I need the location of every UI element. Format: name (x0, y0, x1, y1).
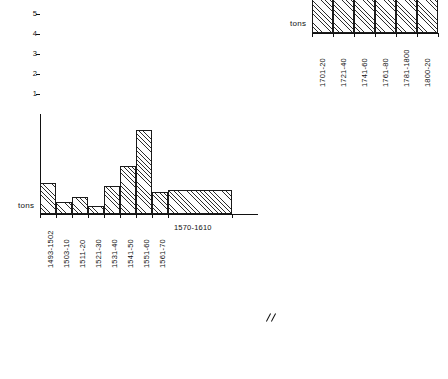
x-axis-label: 1503-10 (63, 239, 71, 268)
bar (333, 0, 354, 33)
bar (312, 0, 333, 33)
x-tick (152, 214, 153, 218)
bar (375, 0, 396, 33)
y-tick-label: 2 (33, 70, 37, 78)
bar (88, 206, 104, 214)
x-tick (40, 214, 41, 218)
x-tick (120, 214, 121, 218)
y-tick-label: 3 (33, 50, 37, 58)
x-axis-label: 1701-20 (319, 58, 327, 87)
y-tick-label: 4 (33, 30, 37, 38)
bar (40, 183, 56, 214)
x-tick (72, 214, 73, 218)
y-axis-unit-label-left: tons (18, 202, 34, 210)
bar (152, 192, 168, 214)
x-axis-label: 1493-1502 (47, 230, 55, 268)
plot-area-right (312, 0, 438, 33)
x-axis-label: 1800-20 (424, 58, 432, 87)
x-tick (417, 33, 418, 37)
x-axis-label: 1521-30 (95, 239, 103, 268)
x-axis-label: 1721-40 (340, 58, 348, 87)
plot-area-left (40, 114, 232, 214)
x-axis-label: 1511-20 (79, 240, 87, 268)
bar (417, 0, 438, 33)
x-tick (396, 33, 397, 37)
x-tick (438, 33, 439, 37)
bar (56, 202, 72, 214)
x-tick (104, 214, 105, 218)
x-axis-label: 1541-50 (127, 239, 135, 268)
x-axis-label: 1570-1610 (174, 224, 212, 232)
bar (72, 197, 88, 214)
bar (104, 186, 120, 214)
x-tick (375, 33, 376, 37)
y-axis-unit-label-right: tons (290, 20, 306, 28)
x-axis-label: 1781-1800 (403, 49, 411, 87)
x-tick (88, 214, 89, 218)
x-axis-label: 1741-60 (361, 58, 369, 87)
x-tick (333, 33, 334, 37)
bar (136, 130, 152, 214)
y-tick-label: 5 (33, 10, 37, 18)
x-axis-label: 1761-80 (382, 58, 390, 87)
bar (120, 166, 136, 214)
x-tick (354, 33, 355, 37)
x-tick (136, 214, 137, 218)
x-tick (56, 214, 57, 218)
x-axis-label: 1551-60 (143, 239, 151, 268)
x-axis-label: 1531-40 (111, 239, 119, 268)
x-tick (168, 214, 169, 218)
y-tick-label: 1 (33, 90, 37, 98)
x-tick (232, 214, 233, 218)
bar (354, 0, 375, 33)
bar (168, 190, 232, 214)
x-axis-label: 1561-70 (159, 239, 167, 268)
figure-canvas: tons 12345 1493-15021503-101511-201521-3… (0, 0, 448, 379)
bar (396, 0, 417, 33)
x-tick (312, 33, 313, 37)
